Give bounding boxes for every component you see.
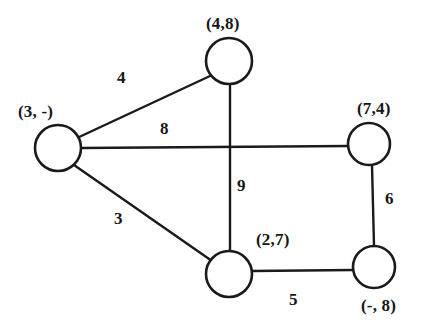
edge-right-bottom-right xyxy=(372,165,374,246)
graph-figure: 483965(4,8)(3, -)(7,4)(2,7)(-, 8) xyxy=(0,0,423,324)
node-top xyxy=(206,38,252,84)
node-bottom-mid xyxy=(206,251,252,297)
node-bottom-right xyxy=(353,246,395,288)
edge-left-top xyxy=(77,76,210,138)
edge-left-bottom-mid xyxy=(74,165,212,261)
edge-weight-right-bottom-right: 6 xyxy=(385,190,394,207)
node-label-top: (4,8) xyxy=(206,15,240,32)
edge-weight-bottom-mid-bottom-right: 5 xyxy=(289,291,298,308)
node-left xyxy=(35,125,81,171)
node-label-bottom-mid: (2,7) xyxy=(256,231,290,248)
node-label-right: (7,4) xyxy=(357,100,391,117)
nodes-group xyxy=(35,38,395,297)
edge-weight-left-right: 8 xyxy=(160,120,169,137)
edge-left-right xyxy=(81,146,348,148)
edge-weight-left-top: 4 xyxy=(117,69,126,86)
node-label-left: (3, -) xyxy=(18,103,53,120)
graph-canvas xyxy=(0,0,423,324)
node-label-bottom-right: (-, 8) xyxy=(361,297,396,314)
edge-bottom-mid-bottom-right xyxy=(252,270,353,271)
edge-weight-left-bottom-mid: 3 xyxy=(114,210,123,227)
node-right xyxy=(348,123,390,165)
edges-group xyxy=(74,76,374,271)
edge-weight-top-bottom-mid: 9 xyxy=(237,177,246,194)
